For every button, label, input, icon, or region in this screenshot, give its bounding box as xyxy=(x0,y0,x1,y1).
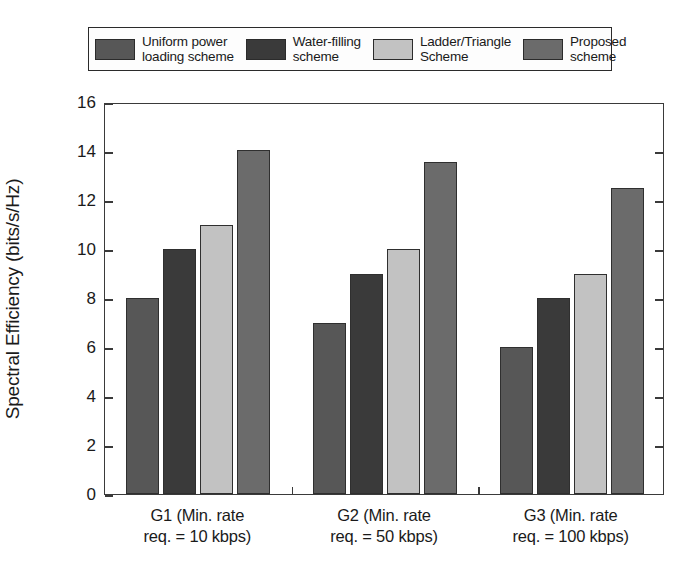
bar-group-1-series-1 xyxy=(126,298,159,494)
bar-group-2-series-1 xyxy=(313,323,346,495)
legend-entry-water-filling-scheme: Water-filling scheme xyxy=(246,34,361,65)
y-axis-title: Spectral Efficiency (bits/s/Hz) xyxy=(0,103,30,495)
bar-group-1-series-3 xyxy=(200,225,233,495)
bar-group-3-series-3 xyxy=(574,274,607,495)
bar-group-2-series-4 xyxy=(424,162,457,494)
bar-group-3-series-4 xyxy=(611,188,644,494)
x-axis-group-labels: G1 (Min. rate req. = 10 kbps) G2 (Min. r… xyxy=(104,505,664,547)
y-tick-label-12: 12 xyxy=(77,191,96,211)
legend-entry-uniform-power-loading-scheme: Uniform power loading scheme xyxy=(95,34,234,65)
legend-entry-ladder-triangle-scheme: Ladder/Triangle Scheme xyxy=(373,34,511,65)
x-group-label-g1: G1 (Min. rate req. = 10 kbps) xyxy=(104,505,291,547)
legend-label-series-2: Ladder/Triangle Scheme xyxy=(420,34,511,65)
bar-group-3-series-2 xyxy=(537,298,570,494)
legend-swatch-icon-series-0 xyxy=(95,39,135,60)
y-tick-label-2: 2 xyxy=(87,436,96,456)
legend-label-series-3: Proposed scheme xyxy=(570,34,626,65)
chart-legend: Uniform power loading scheme Water-filli… xyxy=(88,27,612,71)
y-tick-label-10: 10 xyxy=(77,240,96,260)
y-tick-label-0: 0 xyxy=(87,485,96,505)
legend-label-series-0: Uniform power loading scheme xyxy=(142,34,234,65)
bar-group-2-series-3 xyxy=(387,249,420,494)
bar-group-3-series-1 xyxy=(500,347,533,494)
legend-swatch-icon-series-1 xyxy=(246,39,286,60)
x-group-label-g3: G3 (Min. rate req. = 100 kbps) xyxy=(477,505,664,547)
bar-group-1-series-4 xyxy=(237,150,270,494)
x-group-label-g2: G2 (Min. rate req. = 50 kbps) xyxy=(291,505,478,547)
bar-group-2-series-2 xyxy=(350,274,383,495)
bars-layer xyxy=(105,104,663,494)
legend-label-series-1: Water-filling scheme xyxy=(293,34,361,65)
legend-swatch-icon-series-2 xyxy=(373,39,413,60)
y-tick-left-0: 0 xyxy=(105,495,113,497)
y-tick-label-6: 6 xyxy=(87,338,96,358)
y-tick-label-16: 16 xyxy=(77,93,96,113)
y-tick-label-14: 14 xyxy=(77,142,96,162)
y-tick-label-4: 4 xyxy=(87,387,96,407)
legend-entry-proposed-scheme: Proposed scheme xyxy=(523,34,626,65)
y-tick-label-8: 8 xyxy=(87,289,96,309)
plot-area: 0246810121416 xyxy=(104,103,664,495)
legend-swatch-icon-series-3 xyxy=(523,39,563,60)
bar-group-1-series-2 xyxy=(163,249,196,494)
